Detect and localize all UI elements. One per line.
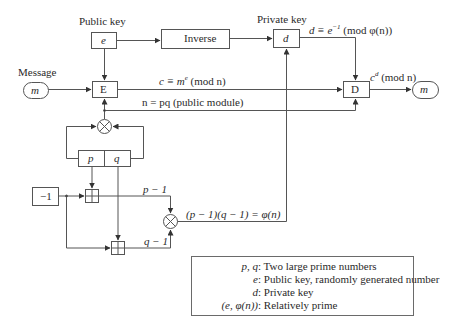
legend-row-e: e: Public key, randomly generated number <box>196 274 439 285</box>
message-out-label: m <box>420 84 428 95</box>
q-label: q <box>114 153 120 164</box>
p-label: p <box>88 153 94 164</box>
cipher-formula: c ≡ me (mod n) <box>159 75 226 87</box>
encrypt-box-label: E <box>100 84 107 95</box>
p-minus-one-label: p − 1 <box>143 184 167 195</box>
legend-row-pq: p, q: Two large prime numbers <box>196 261 377 272</box>
private-key-label: Private key <box>257 14 307 25</box>
legend-row-d: d: Private key <box>196 287 314 298</box>
minus-one-label: −1 <box>40 191 52 202</box>
decrypt-box-label: D <box>351 84 359 95</box>
decrypt-formula: cd (mod n) <box>370 71 416 83</box>
legend-box: p, q: Two large prime numbers e: Public … <box>191 256 414 316</box>
phi-formula: (p − 1)(q − 1) = φ(n) <box>186 209 280 220</box>
message-label: Message <box>18 67 57 78</box>
modulus-formula: n = pq (public module) <box>142 97 244 108</box>
e-box-label: e <box>101 35 106 46</box>
inverse-box-label: Inverse <box>184 33 216 44</box>
q-minus-one-label: q − 1 <box>144 236 168 247</box>
public-key-label: Public key <box>79 16 126 27</box>
legend-row-relatively-prime: (e, φ(n)): Relatively prime <box>196 300 337 311</box>
message-in-label: m <box>31 85 39 96</box>
d-definition-formula: d ≡ e−1 (mod φ(n)) <box>309 24 392 36</box>
d-box-label: d <box>283 33 289 44</box>
